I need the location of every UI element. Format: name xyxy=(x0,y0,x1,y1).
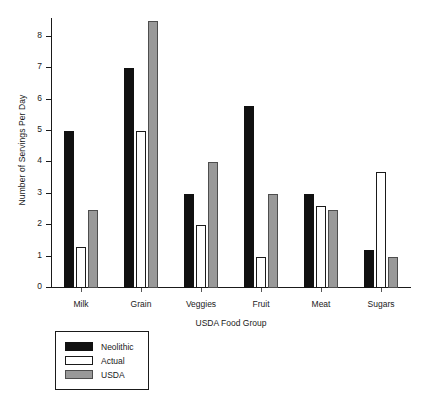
y-tick-label: 4 xyxy=(37,155,42,166)
x-tick-sugars xyxy=(381,288,382,292)
x-tick-milk xyxy=(81,288,82,292)
bar-milk-usda xyxy=(88,210,98,288)
bar-grain-neolithic xyxy=(124,68,134,288)
y-tick-5: 5 xyxy=(46,130,51,131)
bar-veggies-actual xyxy=(196,225,206,288)
y-tick-4: 4 xyxy=(46,161,51,162)
x-tick-label-milk: Milk xyxy=(73,299,88,309)
x-tick-label-grain: Grain xyxy=(131,299,152,309)
y-tick-label: 6 xyxy=(37,93,42,104)
y-tick-label: 3 xyxy=(37,187,42,198)
y-tick-7: 7 xyxy=(46,67,51,68)
x-tick-label-fruit: Fruit xyxy=(253,299,270,309)
x-tick-meat xyxy=(321,288,322,292)
x-tick-label-meat: Meat xyxy=(312,299,331,309)
bar-veggies-usda xyxy=(208,162,218,288)
x-tick-fruit xyxy=(261,288,262,292)
x-tick-grain xyxy=(141,288,142,292)
bar-fruit-usda xyxy=(268,194,278,288)
y-axis-line xyxy=(51,18,52,288)
plot-area: 012345678 MilkGrainVeggiesFruitMeatSugar… xyxy=(51,18,411,288)
legend-item-usda: USDA xyxy=(65,368,134,381)
bar-fruit-neolithic xyxy=(244,106,254,288)
x-tick-label-veggies: Veggies xyxy=(186,299,216,309)
chart-figure: Number of Servings Per Day 012345678 Mil… xyxy=(0,0,432,397)
y-tick-label: 2 xyxy=(37,218,42,229)
y-axis-title: Number of Servings Per Day xyxy=(17,60,27,240)
y-tick-label: 5 xyxy=(37,124,42,135)
y-tick-2: 2 xyxy=(46,224,51,225)
bar-veggies-neolithic xyxy=(184,194,194,288)
x-axis-line xyxy=(51,287,411,288)
y-tick-3: 3 xyxy=(46,193,51,194)
bar-fruit-actual xyxy=(256,257,266,288)
legend-label: USDA xyxy=(101,370,125,380)
legend-item-neolithic: Neolithic xyxy=(65,340,134,353)
y-tick-label: 7 xyxy=(37,61,42,72)
y-tick-1: 1 xyxy=(46,256,51,257)
y-tick-label: 1 xyxy=(37,250,42,261)
legend-item-actual: Actual xyxy=(65,354,134,367)
legend-label: Neolithic xyxy=(101,342,134,352)
bar-grain-actual xyxy=(136,131,146,288)
legend-swatch-neolithic xyxy=(65,342,93,351)
bar-meat-neolithic xyxy=(304,194,314,288)
bar-milk-actual xyxy=(76,247,86,288)
x-axis-title: USDA Food Group xyxy=(51,318,411,328)
bar-sugars-neolithic xyxy=(364,250,374,288)
legend-swatch-usda xyxy=(65,370,93,379)
chart-legend: NeolithicActualUSDA xyxy=(55,331,149,390)
y-tick-8: 8 xyxy=(46,36,51,37)
x-tick-veggies xyxy=(201,288,202,292)
bar-meat-usda xyxy=(328,210,338,288)
bar-sugars-actual xyxy=(376,172,386,288)
y-tick-6: 6 xyxy=(46,99,51,100)
x-tick-label-sugars: Sugars xyxy=(368,299,395,309)
y-tick-0: 0 xyxy=(46,287,51,288)
legend-swatch-actual xyxy=(65,356,93,365)
bar-sugars-usda xyxy=(388,257,398,288)
legend-label: Actual xyxy=(101,356,125,366)
y-tick-label: 0 xyxy=(37,281,42,292)
bar-grain-usda xyxy=(148,21,158,288)
y-tick-label: 8 xyxy=(37,30,42,41)
bar-meat-actual xyxy=(316,206,326,288)
bar-milk-neolithic xyxy=(64,131,74,288)
